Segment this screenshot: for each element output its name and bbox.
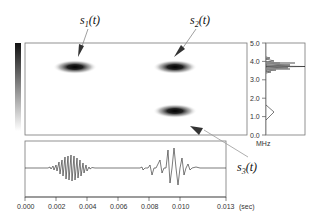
svg-text:0.013: 0.013	[217, 203, 235, 210]
svg-text:s1(t): s1(t)	[80, 13, 100, 29]
svg-text:s3(t): s3(t)	[237, 160, 257, 176]
component-s2	[153, 60, 197, 74]
svg-text:5.0: 5.0	[250, 40, 260, 47]
svg-text:1.0: 1.0	[250, 113, 260, 120]
svg-text:0.002: 0.002	[48, 203, 66, 210]
svg-text:s2(t): s2(t)	[190, 13, 210, 29]
spectrogram-panel	[25, 43, 247, 135]
time-axis: 0.000 0.002 0.004 0.006 0.008 0.010 0.01…	[17, 197, 255, 211]
svg-text:0.000: 0.000	[17, 203, 35, 210]
svg-text:0.010: 0.010	[172, 203, 190, 210]
svg-text:4.0: 4.0	[250, 58, 260, 65]
chart-figure: 5.0 4.0 3.0 2.0 1.0 0.0 MHz 0.000 0.002 …	[0, 0, 310, 219]
svg-text:2.0: 2.0	[250, 95, 260, 102]
svg-text:3.0: 3.0	[250, 76, 260, 83]
svg-text:0.0: 0.0	[250, 132, 260, 139]
svg-text:MHz: MHz	[256, 140, 271, 147]
svg-text:0.004: 0.004	[79, 203, 97, 210]
component-s3	[153, 104, 197, 118]
svg-text:0.006: 0.006	[110, 203, 128, 210]
component-s1	[53, 60, 97, 74]
svg-text:(sec): (sec)	[239, 203, 255, 211]
spectrum-panel	[266, 43, 305, 135]
colorbar	[15, 43, 21, 131]
waveform-panel	[25, 141, 226, 197]
svg-text:0.008: 0.008	[141, 203, 159, 210]
